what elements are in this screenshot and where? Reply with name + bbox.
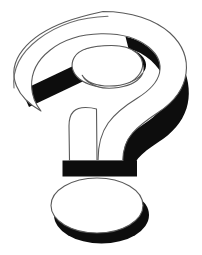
stem-base-bar	[63, 161, 138, 177]
question-mark-graphic: ? A large three-dimensional question mar…	[0, 0, 202, 255]
dot-face	[51, 178, 143, 233]
artboard: ? A large three-dimensional question mar…	[0, 0, 202, 255]
stem-face	[69, 108, 97, 161]
